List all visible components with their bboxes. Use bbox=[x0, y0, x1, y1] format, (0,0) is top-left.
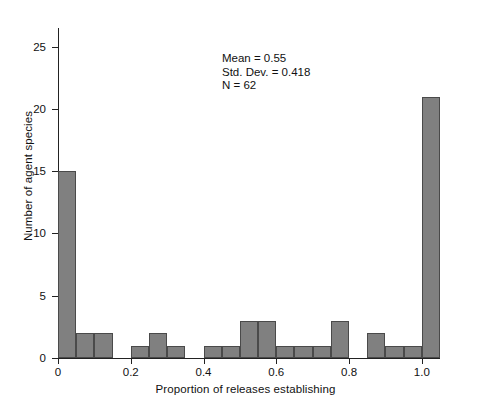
histogram-bar bbox=[276, 346, 294, 358]
histogram-bar bbox=[422, 97, 440, 359]
histogram-bar bbox=[331, 321, 349, 358]
histogram-bar bbox=[313, 346, 331, 358]
histogram-bar bbox=[131, 346, 149, 358]
histogram-bar bbox=[204, 346, 222, 358]
histogram-bar bbox=[240, 321, 258, 358]
y-axis-tick-label: 0 bbox=[0, 352, 46, 364]
histogram-bar bbox=[149, 333, 167, 358]
y-axis-tick-label: 5 bbox=[0, 290, 46, 302]
x-axis-tick-label: 0.8 bbox=[329, 366, 369, 378]
histogram-bar bbox=[294, 346, 312, 358]
stats-annotation-line: N = 62 bbox=[222, 79, 310, 93]
x-axis-tick-label: 0 bbox=[38, 366, 78, 378]
histogram-bar bbox=[76, 333, 94, 358]
y-axis-tick-label: 10 bbox=[0, 227, 46, 239]
stats-annotation: Mean = 0.55Std. Dev. = 0.418N = 62 bbox=[222, 52, 310, 93]
x-axis-tick bbox=[58, 358, 59, 364]
x-axis-tick-label: 0.2 bbox=[111, 366, 151, 378]
histogram-bar bbox=[94, 333, 112, 358]
y-axis-tick-label: 25 bbox=[0, 41, 46, 53]
x-axis-tick bbox=[131, 358, 132, 364]
x-axis-tick bbox=[349, 358, 350, 364]
stats-annotation-line: Std. Dev. = 0.418 bbox=[222, 66, 310, 80]
x-axis-line bbox=[58, 358, 440, 359]
x-axis-tick-label: 0.6 bbox=[256, 366, 296, 378]
histogram-bar bbox=[222, 346, 240, 358]
x-axis-tick-label: 0.4 bbox=[184, 366, 224, 378]
histogram-bar bbox=[58, 171, 76, 358]
histogram-figure: Number of agent species Proportion of re… bbox=[0, 0, 488, 405]
stats-annotation-line: Mean = 0.55 bbox=[222, 52, 310, 66]
x-axis-tick-label: 1.0 bbox=[402, 366, 442, 378]
x-axis-tick bbox=[204, 358, 205, 364]
histogram-bar bbox=[385, 346, 403, 358]
x-axis-tick bbox=[422, 358, 423, 364]
x-axis-tick bbox=[276, 358, 277, 364]
histogram-bar bbox=[404, 346, 422, 358]
histogram-bar bbox=[258, 321, 276, 358]
histogram-bar bbox=[167, 346, 185, 358]
x-axis-title: Proportion of releases establishing bbox=[58, 383, 433, 395]
y-axis-tick-label: 15 bbox=[0, 165, 46, 177]
histogram-bar bbox=[367, 333, 385, 358]
y-axis-tick-label: 20 bbox=[0, 103, 46, 115]
